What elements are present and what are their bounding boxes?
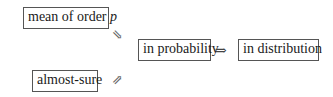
node-label: mean of order bbox=[28, 9, 110, 24]
node-mean-of-order-p: mean of order p bbox=[23, 7, 109, 29]
node-label: almost-sure bbox=[37, 72, 102, 87]
implies-northeast-arrow-icon: ⇗ bbox=[112, 73, 123, 86]
implies-southeast-arrow-icon: ⇘ bbox=[112, 28, 123, 41]
node-label: in probability bbox=[143, 41, 219, 56]
implies-right-arrow-icon: ⇒ bbox=[215, 44, 227, 57]
node-in-distribution: in distribution bbox=[238, 39, 319, 61]
node-in-probability: in probability bbox=[138, 39, 211, 61]
node-almost-sure: almost-sure bbox=[32, 70, 98, 92]
node-label: in distribution bbox=[243, 41, 322, 56]
variable-p: p bbox=[110, 9, 117, 24]
